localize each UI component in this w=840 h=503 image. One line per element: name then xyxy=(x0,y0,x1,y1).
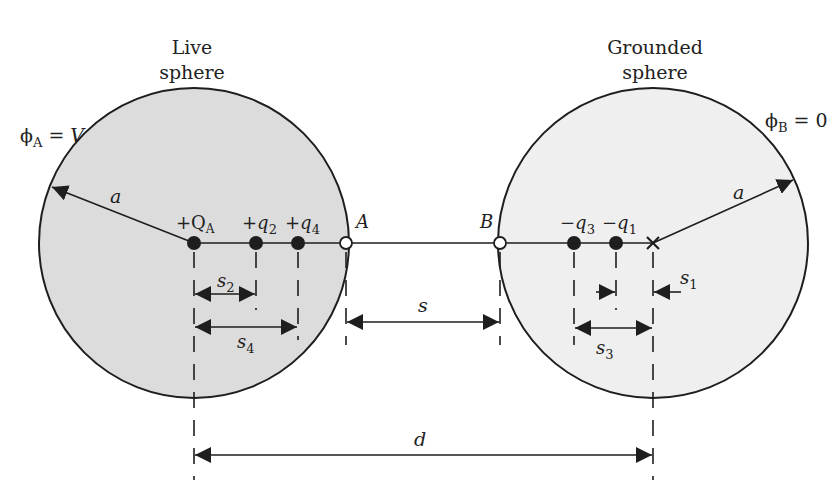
point-A-label: A xyxy=(354,211,369,232)
charge-q4-dot xyxy=(291,236,305,250)
point-A-marker xyxy=(340,237,352,249)
charge-q3-dot xyxy=(567,236,581,250)
grounded-sphere-title-line2: sphere xyxy=(622,61,688,83)
charge-QA-dot xyxy=(187,236,201,250)
charge-q1-dot xyxy=(609,236,623,250)
grounded-sphere-title-line1: Grounded xyxy=(607,36,703,58)
point-B-label: B xyxy=(479,211,493,232)
dim-s-label: s xyxy=(418,294,428,316)
live-radius-label: a xyxy=(110,185,121,207)
two-sphere-image-charge-diagram: Live sphere Grounded sphere ϕA = V ϕB = … xyxy=(0,0,840,503)
point-B-marker xyxy=(494,237,506,249)
charge-q2-dot xyxy=(249,236,263,250)
grounded-radius-label: a xyxy=(733,181,744,203)
live-sphere-title-line1: Live xyxy=(172,36,213,58)
dim-d-label: d xyxy=(414,428,426,450)
live-sphere-title-line2: sphere xyxy=(159,61,225,83)
grounded-sphere-potential-label: ϕB = 0 xyxy=(765,109,828,135)
